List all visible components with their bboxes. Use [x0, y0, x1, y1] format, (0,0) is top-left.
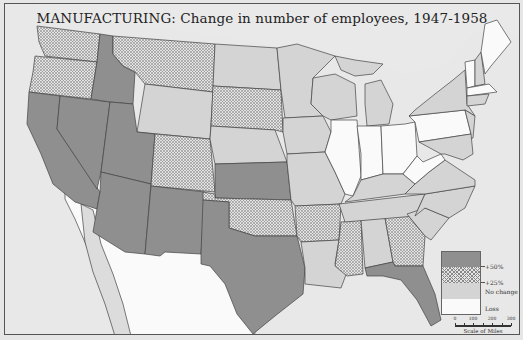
- scale-tick: [492, 323, 493, 326]
- scale-tick: [483, 323, 484, 326]
- scale-tick-label: 300: [507, 316, 516, 321]
- state-arkansas: [295, 204, 341, 242]
- state-iowa: [283, 116, 331, 154]
- scale-tick: [502, 323, 503, 326]
- scale-tick-label: 0: [454, 316, 457, 321]
- legend: +50% +25% No change Loss: [437, 251, 517, 315]
- state-florida: [365, 262, 441, 326]
- legend-item-no-change: No change: [437, 283, 517, 299]
- scale-caption: Scale of Miles: [453, 328, 513, 334]
- state-michigan-lower: [365, 80, 393, 126]
- legend-item-increase-50: +50%: [437, 251, 517, 267]
- legend-item-loss: Loss: [437, 299, 517, 315]
- legend-swatch-hatched: [441, 267, 481, 283]
- state-south-dakota: [211, 86, 283, 132]
- state-vermont: [465, 60, 475, 88]
- scale-bar: 0 100 200 300 Scale of Miles: [453, 317, 517, 335]
- legend-swatch-light: [441, 283, 481, 299]
- state-colorado: [151, 134, 215, 192]
- state-washington: [37, 26, 100, 62]
- map-title: MANUFACTURING: Change in number of emplo…: [5, 10, 519, 26]
- legend-label: Loss: [485, 305, 499, 312]
- scale-tick-label: 200: [488, 316, 497, 321]
- state-indiana: [357, 126, 383, 180]
- state-connecticut-ri: [467, 94, 489, 106]
- scale-tick: [473, 323, 474, 326]
- state-north-dakota: [213, 44, 281, 90]
- scale-tick: [464, 323, 465, 326]
- state-oregon: [29, 56, 97, 99]
- state-wyoming: [137, 84, 213, 139]
- state-kansas: [215, 162, 291, 200]
- scale-tick: [511, 323, 512, 326]
- legend-swatch-dark: [441, 251, 481, 267]
- state-new-york: [409, 70, 475, 116]
- legend-item-increase-25: +25%: [437, 267, 517, 283]
- state-new-mexico: [145, 186, 205, 256]
- map-frame: MANUFACTURING: Change in number of emplo…: [4, 3, 520, 335]
- state-nebraska: [210, 126, 287, 164]
- scale-tick-label: 100: [469, 316, 478, 321]
- legend-swatch-white: [441, 299, 481, 315]
- scale-tick: [455, 323, 456, 326]
- legend-label: No change: [485, 288, 518, 295]
